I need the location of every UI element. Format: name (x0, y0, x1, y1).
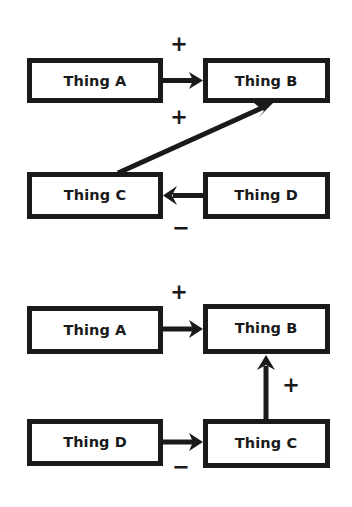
node-label: Thing D (234, 187, 298, 203)
node-thing-c-bottom[interactable]: Thing C (206, 422, 328, 466)
node-label: Thing D (63, 434, 127, 450)
node-thing-a-top[interactable]: Thing A (30, 61, 161, 101)
node-thing-b-bottom[interactable]: Thing B (206, 307, 328, 352)
diagram-canvas: + + − Thing A Thing B (0, 0, 352, 507)
node-label: Thing A (64, 322, 128, 338)
edge-sign-positive: + (170, 280, 188, 304)
diagram-surface: + + − Thing A Thing B (0, 0, 352, 507)
edge-sign-positive: + (170, 105, 188, 129)
node-thing-d-top[interactable]: Thing D (206, 175, 328, 217)
edge-line (118, 107, 264, 173)
edge-sign-negative: − (172, 216, 190, 240)
edge-c-to-b-bottom[interactable]: + (257, 355, 300, 419)
edge-sign-positive: + (170, 32, 188, 56)
edge-d-to-c-top[interactable]: − (163, 186, 203, 240)
node-thing-b-top[interactable]: Thing B (206, 61, 328, 101)
edge-a-to-b-top[interactable]: + (163, 32, 203, 89)
node-label: Thing B (235, 73, 298, 89)
causal-diagram-top: + + − Thing A Thing B (30, 32, 328, 240)
node-label: Thing B (235, 320, 298, 336)
node-thing-c-top[interactable]: Thing C (30, 175, 161, 217)
edge-c-to-b-top[interactable]: + (118, 101, 275, 173)
node-label: Thing A (64, 73, 128, 89)
edge-sign-positive: + (282, 373, 300, 397)
node-thing-d-bottom[interactable]: Thing D (30, 422, 161, 464)
causal-diagram-bottom: + + − Thing A Thing B (30, 280, 328, 479)
edge-a-to-b-bottom[interactable]: + (163, 280, 203, 338)
edge-d-to-c-bottom[interactable]: − (163, 433, 203, 479)
edge-sign-negative: − (172, 455, 190, 479)
node-label: Thing C (235, 435, 297, 451)
node-label: Thing C (64, 187, 126, 203)
node-thing-a-bottom[interactable]: Thing A (30, 309, 161, 352)
